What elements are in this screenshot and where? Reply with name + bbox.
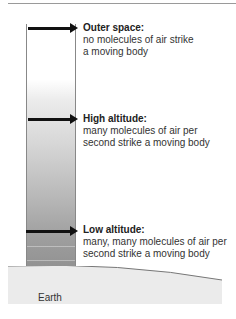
top-rule	[8, 3, 236, 4]
level-text: many, many molecules of air per	[83, 236, 227, 248]
label-low-altitude: Low altitude: many, many molecules of ai…	[83, 224, 227, 260]
level-text: second strike a moving body	[83, 137, 210, 149]
density-band	[27, 246, 75, 247]
level-title: Outer space:	[83, 22, 194, 34]
level-text: no molecules of air strike	[83, 34, 194, 46]
level-text: a moving body	[83, 46, 194, 58]
atmosphere-column	[26, 24, 76, 276]
earth-surface	[0, 266, 236, 319]
earth-label: Earth	[38, 292, 62, 303]
density-band	[27, 260, 75, 261]
label-high-altitude: High altitude: many molecules of air per…	[83, 113, 210, 149]
level-title: High altitude:	[83, 113, 210, 125]
level-title: Low altitude:	[83, 224, 227, 236]
label-outer-space: Outer space: no molecules of air strike …	[83, 22, 194, 58]
level-text: many molecules of air per	[83, 125, 210, 137]
level-text: second strike a moving body	[83, 248, 227, 260]
arrow-outer-space-icon	[28, 27, 71, 30]
arrow-high-altitude-icon	[28, 118, 71, 121]
arrow-low-altitude-icon	[26, 230, 71, 233]
